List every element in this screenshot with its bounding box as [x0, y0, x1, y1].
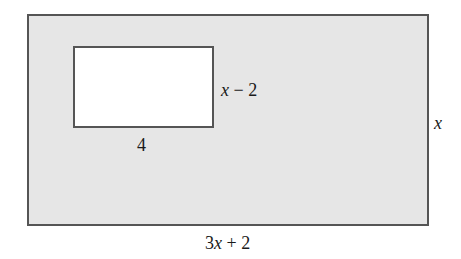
inner-rectangle-unshaded — [73, 46, 214, 128]
outer-height-variable: x — [434, 113, 442, 133]
outer-width-variable: x — [214, 233, 222, 253]
inner-height-variable: x — [221, 80, 229, 100]
outer-width-coefficient: 3 — [205, 233, 214, 253]
outer-width-constant: + 2 — [222, 233, 250, 253]
outer-width-label: 3x + 2 — [205, 234, 250, 252]
outer-height-label: x — [434, 114, 442, 132]
inner-height-constant: − 2 — [229, 80, 257, 100]
inner-width-label: 4 — [137, 136, 146, 154]
inner-height-label: x − 2 — [221, 81, 257, 99]
